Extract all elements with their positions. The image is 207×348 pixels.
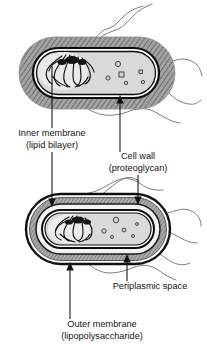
cytoplasmic-granule — [139, 70, 142, 73]
label-cell-wall-line2: (proteoglycan) — [109, 163, 168, 173]
label-outer-membrane-line1: Outer membrane — [67, 319, 136, 329]
label-periplasmic-space: Periplasmic space — [113, 281, 188, 291]
label-inner-membrane-line1: Inner membrane — [18, 128, 85, 138]
cytoplasmic-granule — [106, 76, 110, 80]
cytoplasmic-granule — [119, 72, 124, 77]
cytoplasmic-granule — [102, 229, 106, 233]
cytoplasmic-granule — [111, 236, 114, 239]
nucleoid-dna-tangle — [48, 214, 92, 244]
cytoplasmic-granule — [132, 235, 135, 238]
label-outer-membrane-line2: (lipopolysaccharide) — [61, 331, 143, 341]
cytoplasmic-granule — [113, 217, 119, 223]
bacteria-diagram-figure: Inner membrane (lipid bilayer) Cell wall… — [0, 0, 207, 348]
cytoplasmic-granule — [115, 61, 120, 66]
label-inner-membrane-line2: (lipid bilayer) — [26, 140, 78, 150]
label-cell-wall-line1: Cell wall — [121, 151, 155, 161]
cytoplasmic-granule — [141, 80, 144, 83]
diagram-canvas: Inner membrane (lipid bilayer) Cell wall… — [0, 0, 207, 348]
cytoplasmic-granule — [124, 81, 127, 84]
gram-positive-cell — [19, 4, 202, 123]
cytoplasmic-granule — [136, 223, 139, 226]
cytoplasmic-granule — [122, 228, 126, 232]
